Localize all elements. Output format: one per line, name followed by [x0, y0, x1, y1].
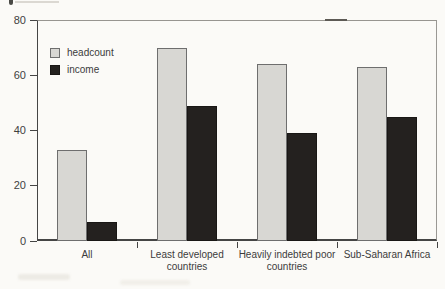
x-axis-tick [437, 242, 438, 248]
x-axis-tick [337, 242, 338, 248]
y-axis-tick [30, 20, 37, 21]
scan-artifact-smudge [15, 1, 59, 3]
bar-income [287, 133, 317, 241]
y-axis-tick-label: 80 [0, 15, 26, 26]
headcount-swatch-icon [50, 48, 60, 58]
bar-headcount [357, 67, 387, 241]
legend-item-headcount: headcount [50, 44, 114, 61]
y-axis-tick [30, 130, 37, 131]
bar-chart: headcount income 020406080AllLeast devel… [0, 0, 445, 289]
x-axis-tick [137, 242, 138, 248]
x-axis-category-label: Sub-Saharan Africa [335, 249, 439, 261]
legend: headcount income [50, 44, 114, 78]
legend-label-income: income [67, 64, 99, 75]
scan-artifact-smudge [18, 274, 70, 280]
scan-artifact-smudge [120, 280, 190, 285]
bar-income [187, 106, 217, 241]
y-axis-tick-label: 40 [0, 125, 26, 136]
y-axis-tick [30, 185, 37, 186]
bar-income [87, 222, 117, 241]
income-swatch-icon [50, 65, 60, 75]
x-axis-category-label: Heavily indebted poor countries [235, 249, 339, 272]
bar-headcount [57, 150, 87, 241]
y-axis-tick-label: 0 [0, 236, 26, 247]
y-axis-tick [30, 75, 37, 76]
x-axis-category-label: All [35, 249, 139, 261]
y-axis-tick-label: 60 [0, 70, 26, 81]
bar-headcount [157, 48, 187, 241]
bar-headcount [257, 64, 287, 241]
legend-label-headcount: headcount [67, 47, 114, 58]
x-axis-tick [237, 242, 238, 248]
legend-item-income: income [50, 61, 114, 78]
x-axis-category-label: Least developed countries [135, 249, 239, 272]
y-axis-tick [30, 241, 37, 242]
scan-artifact-frame-segment [325, 19, 347, 21]
bar-income [387, 117, 417, 241]
y-axis-tick-label: 20 [0, 180, 26, 191]
scan-artifact-mark [9, 0, 13, 5]
